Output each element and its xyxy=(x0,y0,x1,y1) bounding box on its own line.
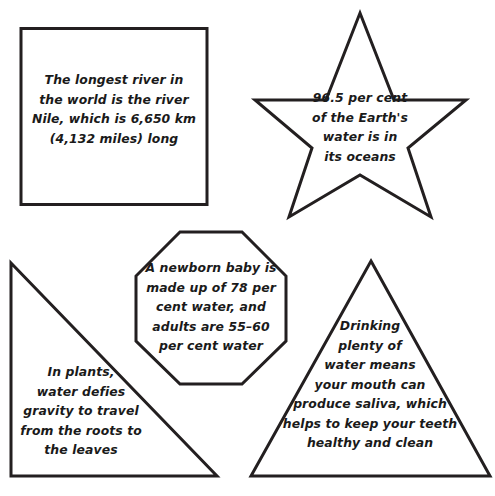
left-triangle-fact-text: In plants, water defies gravity to trave… xyxy=(8,362,154,460)
square-fact-text: The longest river in the world is the ri… xyxy=(26,70,202,148)
right-triangle-fact-text: Drinking plenty of water means your mout… xyxy=(258,316,482,453)
star-fact-text: 96.5 per cent of the Earth's water is in… xyxy=(296,88,424,166)
worksheet-canvas: The longest river in the world is the ri… xyxy=(0,0,495,496)
